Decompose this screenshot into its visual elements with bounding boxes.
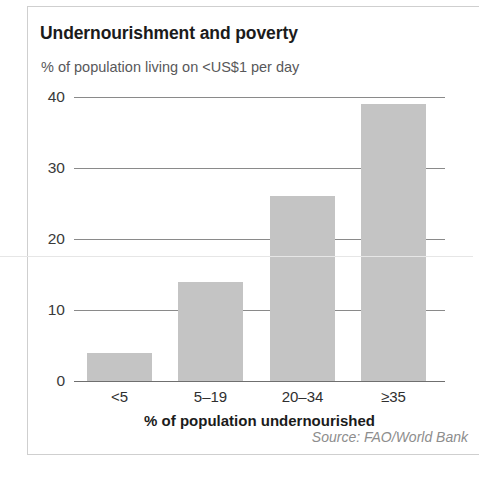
plot-area: 40 30 20 10 0 <5 5–19 20–34 ≥35 bbox=[74, 97, 445, 381]
ytick-label-40: 40 bbox=[48, 88, 65, 106]
axis-baseline: 0 bbox=[74, 381, 445, 382]
bar-gte35[interactable] bbox=[361, 104, 426, 381]
bar-5-19[interactable] bbox=[178, 282, 243, 381]
chart-subtitle: % of population living on <US$1 per day bbox=[41, 59, 299, 75]
page-title: Undernourishment and poverty bbox=[40, 23, 298, 44]
source-note: Source: FAO/World Bank bbox=[312, 429, 468, 445]
ytick-label-20: 20 bbox=[48, 230, 65, 248]
xtick-label-5-19: 5–19 bbox=[194, 388, 227, 405]
x-axis-title: % of population undernourished bbox=[144, 412, 375, 429]
xtick-label-gte35: ≥35 bbox=[381, 388, 406, 405]
ytick-label-10: 10 bbox=[48, 301, 65, 319]
bar-20-34[interactable] bbox=[270, 196, 335, 381]
bar-lt5[interactable] bbox=[87, 353, 152, 381]
ytick-label-30: 30 bbox=[48, 159, 65, 177]
xtick-label-lt5: <5 bbox=[111, 388, 128, 405]
figure-panel: Undernourishment and poverty % of popula… bbox=[27, 6, 479, 455]
xtick-label-20-34: 20–34 bbox=[282, 388, 324, 405]
ytick-label-0: 0 bbox=[56, 372, 65, 390]
gridline-40: 40 bbox=[74, 97, 445, 98]
